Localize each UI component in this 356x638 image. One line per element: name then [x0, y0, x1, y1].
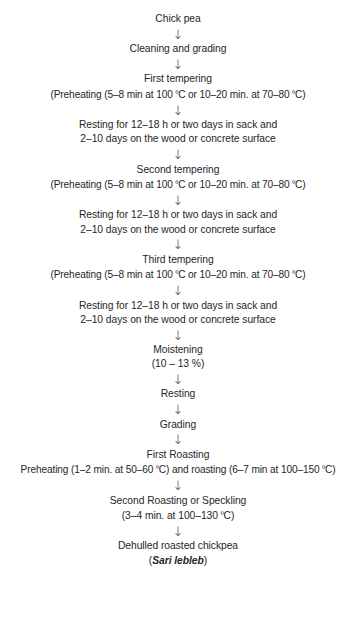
- down-arrow-icon: ↓: [4, 104, 352, 117]
- down-arrow-icon: ↓: [4, 194, 352, 207]
- step-detail: (Preheating (5–8 min at 100 ºC or 10–20 …: [4, 267, 352, 283]
- flow-step-moistening: Moistening (10 – 13 %): [4, 343, 352, 371]
- step-detail: (3–4 min. at 100–130 ºC): [4, 508, 352, 524]
- step-detail: 2–10 days on the wood or concrete surfac…: [4, 132, 352, 146]
- down-arrow-icon: ↓: [4, 373, 352, 386]
- step-detail: (Preheating (5–8 min at 100 ºC or 10–20 …: [4, 87, 352, 103]
- down-arrow-icon: ↓: [4, 148, 352, 161]
- down-arrow-icon: ↓: [4, 525, 352, 538]
- step-label: Chick pea: [4, 12, 352, 26]
- step-label: First tempering: [4, 72, 352, 86]
- step-label: First Roasting: [4, 448, 352, 462]
- flow-step-resting-2: Resting for 12–18 h or two days in sack …: [4, 208, 352, 236]
- flow-step-resting-1: Resting for 12–18 h or two days in sack …: [4, 118, 352, 146]
- product-name-line: (Sari lebleb): [4, 554, 352, 568]
- step-label: Second Roasting or Speckling: [4, 494, 352, 508]
- flow-step-second-roasting: Second Roasting or Speckling (3–4 min. a…: [4, 494, 352, 524]
- step-label: Moistening: [4, 343, 352, 357]
- down-arrow-icon: ↓: [4, 433, 352, 446]
- flow-step-cleaning-and-grading: Cleaning and grading: [4, 42, 352, 56]
- process-flowchart: Chick pea ↓ Cleaning and grading ↓ First…: [0, 0, 356, 638]
- down-arrow-icon: ↓: [4, 403, 352, 416]
- down-arrow-icon: ↓: [4, 238, 352, 251]
- product-local-name: Sari lebleb: [152, 555, 204, 566]
- step-label: Resting for 12–18 h or two days in sack …: [4, 118, 352, 132]
- step-detail: 2–10 days on the wood or concrete surfac…: [4, 223, 352, 237]
- paren-close: ): [204, 555, 207, 566]
- flow-step-resting-4: Resting: [4, 387, 352, 401]
- step-detail: Preheating (1–2 min. at 50–60 ºC) and ro…: [4, 462, 352, 478]
- down-arrow-icon: ↓: [4, 329, 352, 342]
- step-detail: 2–10 days on the wood or concrete surfac…: [4, 313, 352, 327]
- flow-step-dehulled-roasted-chickpea: Dehulled roasted chickpea (Sari lebleb): [4, 539, 352, 567]
- step-detail: (10 – 13 %): [4, 357, 352, 371]
- step-label: Cleaning and grading: [4, 42, 352, 56]
- step-label: Grading: [4, 418, 352, 432]
- step-detail: (Preheating (5–8 min at 100 ºC or 10–20 …: [4, 177, 352, 193]
- step-label: Third tempering: [4, 253, 352, 267]
- flow-step-first-roasting: First Roasting Preheating (1–2 min. at 5…: [4, 448, 352, 478]
- step-label: Resting for 12–18 h or two days in sack …: [4, 208, 352, 222]
- flow-step-third-tempering: Third tempering (Preheating (5–8 min at …: [4, 253, 352, 283]
- down-arrow-icon: ↓: [4, 284, 352, 297]
- down-arrow-icon: ↓: [4, 28, 352, 41]
- flow-step-second-tempering: Second tempering (Preheating (5–8 min at…: [4, 163, 352, 193]
- step-label: Second tempering: [4, 163, 352, 177]
- step-label: Dehulled roasted chickpea: [4, 539, 352, 553]
- flow-step-resting-3: Resting for 12–18 h or two days in sack …: [4, 299, 352, 327]
- step-label: Resting: [4, 387, 352, 401]
- step-label: Resting for 12–18 h or two days in sack …: [4, 299, 352, 313]
- flow-step-first-tempering: First tempering (Preheating (5–8 min at …: [4, 72, 352, 102]
- flow-step-grading: Grading: [4, 418, 352, 432]
- down-arrow-icon: ↓: [4, 479, 352, 492]
- flow-step-chick-pea: Chick pea: [4, 12, 352, 26]
- down-arrow-icon: ↓: [4, 58, 352, 71]
